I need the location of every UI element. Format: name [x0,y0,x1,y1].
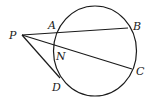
label-n: N [55,50,66,63]
label-c: C [136,65,145,78]
geometry-diagram: P A B N C D [0,0,155,100]
circle [54,6,137,96]
secant-pc [22,35,132,69]
secant-pb [22,28,128,35]
label-b: B [132,20,141,33]
label-p: P [8,29,17,42]
label-a: A [47,19,56,32]
label-d: D [51,81,61,94]
